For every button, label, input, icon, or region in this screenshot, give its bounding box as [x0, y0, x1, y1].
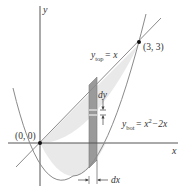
intersection-point — [137, 40, 141, 44]
top-curve-label: ytop= x — [90, 50, 118, 62]
x-axis-label: x — [171, 145, 177, 156]
intersection-label: (3, 3) — [143, 42, 164, 53]
dx-label: dx — [111, 175, 121, 185]
y-axis-label: y — [42, 4, 48, 15]
origin-point — [38, 141, 42, 145]
origin-label: (0, 0) — [15, 131, 36, 142]
area-between-curves-diagram: y x (0, 0) (3, 3) ytop= x ybot= x2−2x dy… — [0, 0, 184, 193]
dy-label: dy — [98, 90, 108, 100]
bottom-curve-label: ybot= x2−2x — [121, 117, 168, 131]
